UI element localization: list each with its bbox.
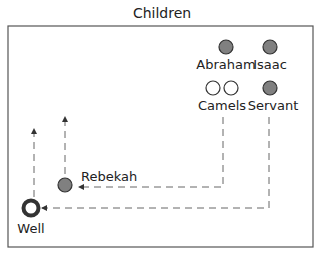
well-ring-icon [24, 201, 39, 216]
servant-node-icon [263, 81, 277, 95]
rebekah-label: Rebekah [81, 169, 137, 184]
camel-node-icon [206, 81, 220, 95]
camel-node-icon [224, 81, 238, 95]
camels-label: Camels [198, 98, 246, 113]
diagram-canvas: Abraham Isaac Camels Servant Rebekah Wel… [0, 0, 324, 259]
isaac-node-icon [263, 40, 277, 54]
servant-label: Servant [248, 98, 299, 113]
abraham-label: Abraham [196, 57, 255, 72]
servant-to-well-path [42, 117, 269, 208]
abraham-node-icon [219, 40, 233, 54]
well-label: Well [17, 221, 44, 236]
rebekah-node-icon [58, 178, 72, 192]
isaac-label: Isaac [253, 57, 287, 72]
